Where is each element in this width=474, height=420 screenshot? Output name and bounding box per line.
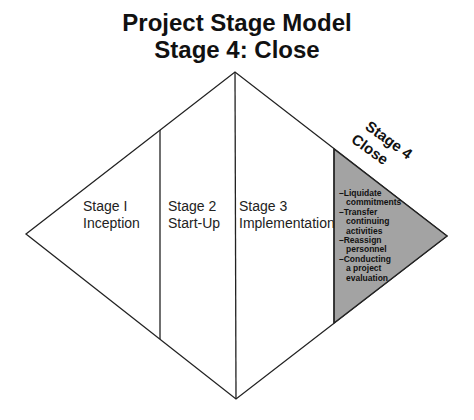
stage-1-name: Stage I: [83, 198, 140, 215]
task-item: –Reassign personnel: [339, 236, 401, 255]
stage-3-name: Stage 3: [239, 198, 335, 215]
task-item: –Liquidate commitments: [339, 189, 401, 208]
stage-3-label: Stage 3 Implementation: [239, 198, 335, 232]
task-item: –Conducting a project evaluation: [339, 255, 401, 283]
stage-2-title: Start-Up: [168, 215, 220, 232]
stage-2-label: Stage 2 Start-Up: [168, 198, 220, 232]
stage-diamond-diagram: [0, 0, 474, 420]
stage-2-name: Stage 2: [168, 198, 220, 215]
stage-1-label: Stage I Inception: [83, 198, 140, 232]
stage-3-title: Implementation: [239, 215, 335, 232]
stage-1-title: Inception: [83, 215, 140, 232]
task-item: –Transfer continuing activities: [339, 208, 401, 236]
stage-4-task-list: –Liquidate commitments –Transfer continu…: [339, 189, 401, 283]
